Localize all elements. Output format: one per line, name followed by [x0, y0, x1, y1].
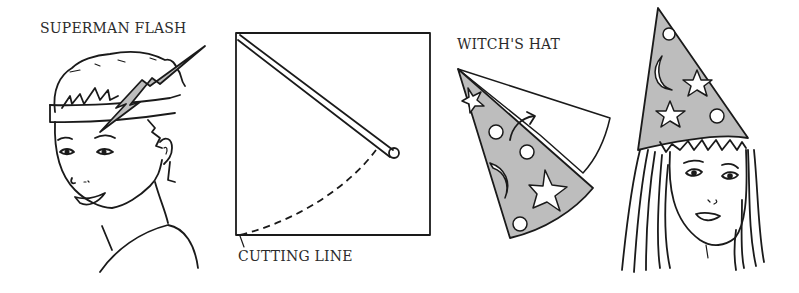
illustration-canvas: [0, 0, 799, 293]
cone-hat-rolling-diagram: [458, 69, 610, 238]
girl-wearing-witch-hat: [622, 8, 764, 272]
square-paper-with-string-compass: [236, 33, 430, 247]
boy-with-lightning-headband: [50, 46, 205, 272]
